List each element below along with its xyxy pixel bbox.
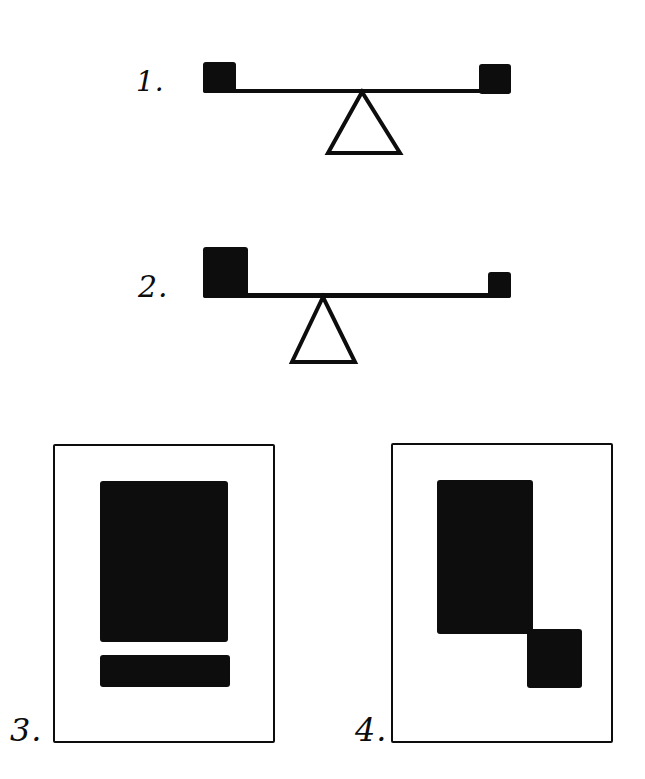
figure-3-bar-block	[100, 655, 230, 687]
figure-1-label: 1.	[136, 68, 165, 96]
figure-4-label: 4.	[355, 714, 388, 746]
figure-1-fulcrum-triangle-icon	[322, 90, 404, 156]
figure-2-fulcrum-triangle-icon	[287, 295, 359, 365]
figure-4-tall-block	[437, 480, 533, 634]
figure-4-small-block	[527, 629, 582, 688]
figure-3-large-block	[100, 481, 228, 642]
illustration-page: 1. 2. 3. 4.	[0, 0, 645, 779]
figure-2-large-weight-square	[203, 247, 248, 298]
figure-3-label: 3.	[10, 714, 43, 746]
figure-2-label: 2.	[138, 272, 169, 302]
